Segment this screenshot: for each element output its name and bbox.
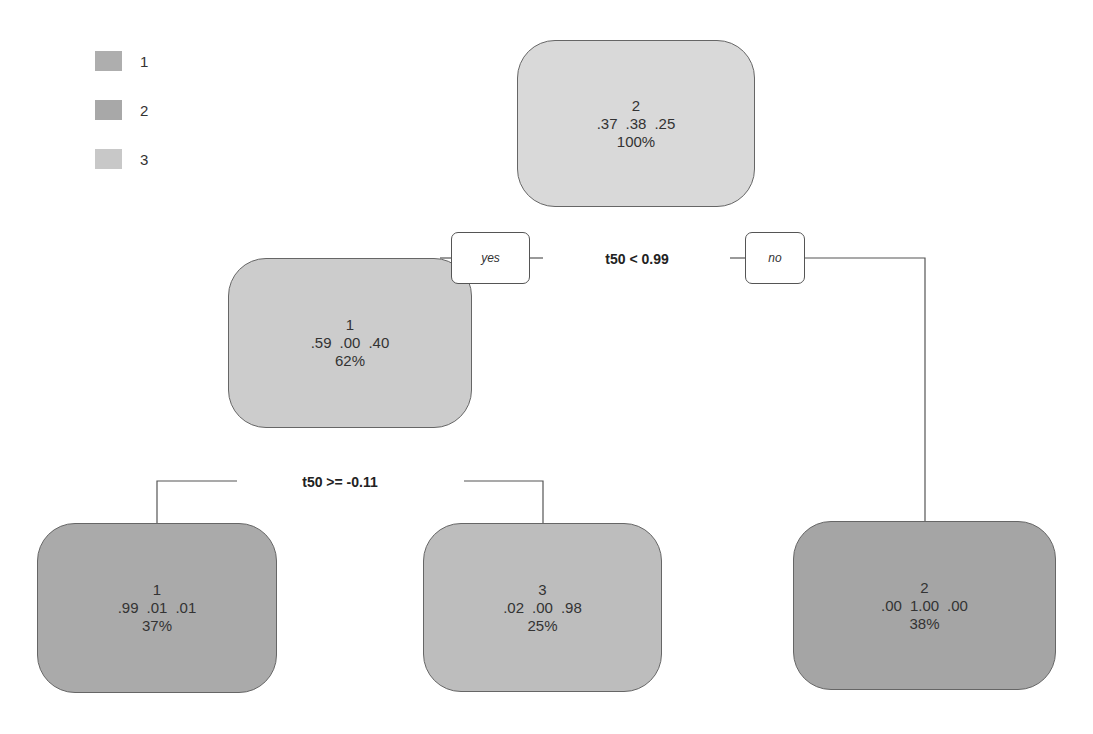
prob-class-2: .01: [147, 599, 168, 616]
tree-leaf-class-2: 2 .001.00.00 38%: [793, 521, 1056, 690]
legend-swatch-2: [95, 100, 122, 120]
legend-swatch-1: [95, 51, 122, 71]
node-percent: 100%: [617, 133, 655, 151]
tree-node-root: 2 .37.38.25 100%: [517, 40, 755, 207]
prob-class-3: .25: [654, 115, 675, 132]
node-probabilities: .59.00.40: [307, 334, 394, 352]
node-percent: 62%: [335, 352, 365, 370]
node-class: 3: [538, 581, 546, 599]
prob-class-3: .00: [947, 597, 968, 614]
tree-leaf-class-1: 1 .99.01.01 37%: [37, 523, 277, 693]
branch-tag-yes: yes: [451, 232, 530, 284]
prob-class-1: .02: [503, 599, 524, 616]
prob-class-2: 1.00: [910, 597, 939, 614]
node-percent: 38%: [909, 615, 939, 633]
node-class: 1: [153, 581, 161, 599]
node-class: 1: [346, 316, 354, 334]
prob-class-2: .00: [340, 334, 361, 351]
tree-leaf-class-3: 3 .02.00.98 25%: [423, 523, 662, 692]
legend-label: 3: [140, 151, 148, 168]
node-probabilities: .001.00.00: [877, 597, 972, 615]
prob-class-1: .37: [597, 115, 618, 132]
node-probabilities: .99.01.01: [114, 599, 201, 617]
prob-class-3: .40: [368, 334, 389, 351]
legend-item-2: 2: [95, 100, 148, 120]
node-percent: 37%: [142, 617, 172, 635]
tree-node-left: 1 .59.00.40 62%: [228, 258, 472, 428]
prob-class-1: .00: [881, 597, 902, 614]
prob-class-1: .59: [311, 334, 332, 351]
legend-item-1: 1: [95, 51, 148, 71]
prob-class-1: .99: [118, 599, 139, 616]
legend-label: 2: [140, 102, 148, 119]
prob-class-2: .00: [532, 599, 553, 616]
node-probabilities: .37.38.25: [593, 115, 680, 133]
legend-label: 1: [140, 53, 148, 70]
node-probabilities: .02.00.98: [499, 599, 586, 617]
decision-tree-diagram: 1 2 3 2 .37.38.25 100% 1 .59.00.40 62% y…: [0, 0, 1093, 734]
split-label-root: t50 < 0.99: [605, 251, 668, 267]
prob-class-3: .98: [561, 599, 582, 616]
prob-class-2: .38: [626, 115, 647, 132]
node-percent: 25%: [527, 617, 557, 635]
prob-class-3: .01: [175, 599, 196, 616]
split-label-left: t50 >= -0.11: [302, 474, 378, 490]
branch-tag-no: no: [745, 232, 805, 284]
legend-swatch-3: [95, 149, 122, 169]
legend-item-3: 3: [95, 149, 148, 169]
node-class: 2: [920, 579, 928, 597]
node-class: 2: [632, 97, 640, 115]
